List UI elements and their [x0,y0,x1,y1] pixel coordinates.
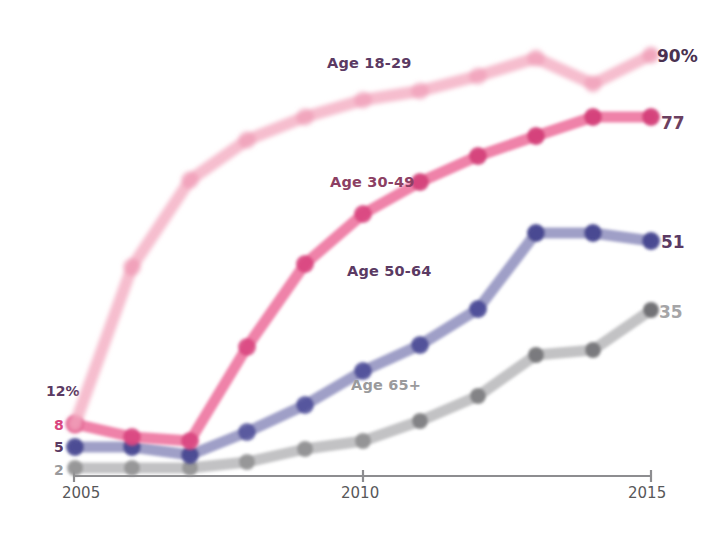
y-axis-label-12: 12% [46,383,80,399]
x-axis-label-2015: 2015 [628,484,666,502]
end-label-age-30-49: 77 [661,113,685,133]
x-axis: 2005 2010 2015 [62,470,666,502]
end-label-age-50-64: 51 [661,232,685,252]
end-label-age-65-plus: 35 [659,302,683,322]
series-label-age-65-plus: Age 65+ [351,377,421,393]
y-axis-label-2: 2 [54,462,64,478]
chart-container: 2005 2010 2015 12% 8 5 2 [0,0,722,534]
series-label-age-18-29: Age 18-29 [327,55,412,71]
series-age-50-64 [66,224,660,464]
end-label-age-18-29: 90% [657,46,698,66]
y-axis-label-5: 5 [54,439,64,455]
line-chart: 2005 2010 2015 12% 8 5 2 [0,0,722,534]
series-label-age-50-64: Age 50-64 [347,263,432,279]
series-points-age-30-49 [66,108,660,450]
series-points-age-50-64 [66,224,660,464]
y-axis-label-8: 8 [54,417,64,433]
series-label-age-30-49: Age 30-49 [330,174,415,190]
series-age-30-49 [66,108,660,450]
x-axis-label-2005: 2005 [62,484,100,502]
x-axis-label-2010: 2010 [341,484,379,502]
